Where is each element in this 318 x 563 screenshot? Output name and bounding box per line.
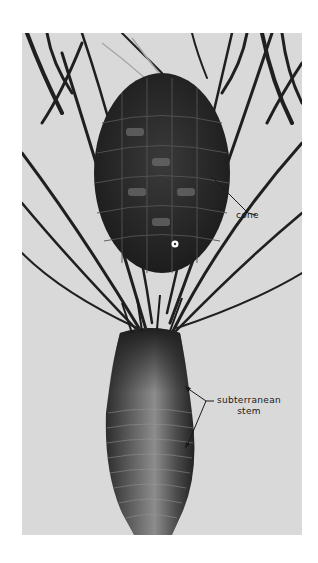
label-cone: cone: [236, 210, 259, 221]
stem-leader-line-lower: [187, 401, 206, 446]
arrowhead-icon: [185, 442, 190, 449]
label-stem-line1: subterranean: [216, 395, 282, 406]
leader-lines: [0, 0, 318, 563]
label-subterranean-stem: subterranean stem: [216, 395, 282, 417]
cone-leader-line: [210, 175, 256, 215]
label-stem-line2: stem: [216, 406, 282, 417]
arrowhead-icon: [185, 386, 191, 392]
stem-leader-line-upper: [187, 388, 214, 401]
